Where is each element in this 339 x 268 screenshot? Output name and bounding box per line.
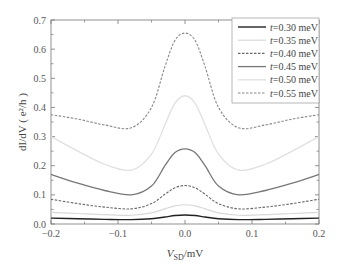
x-axis-title: VSD/mV <box>167 247 204 262</box>
y-tick-label: 0.0 <box>34 219 47 230</box>
x-tick-label: 0.1 <box>246 228 259 239</box>
y-tick-label: 0.5 <box>34 73 47 84</box>
curve-series-3 <box>51 149 319 195</box>
y-axis-title: dI/dV ( e²/h ) <box>16 93 29 151</box>
x-tick-label: 0.0 <box>179 228 192 239</box>
x-tick-label: 0.2 <box>313 228 326 239</box>
curve-series-4 <box>51 96 319 171</box>
legend: t=0.30 meVt=0.35 meVt=0.40 meVt=0.45 meV… <box>232 18 319 103</box>
y-tick-label: 0.1 <box>34 189 47 200</box>
conductance-chart: −0.2−0.10.00.10.20.00.10.20.30.40.50.60.… <box>0 0 339 268</box>
legend-label-1: t=0.35 meV <box>270 35 319 46</box>
curve-series-1 <box>51 205 319 216</box>
legend-label-5: t=0.55 meV <box>270 88 319 99</box>
y-tick-label: 0.4 <box>34 102 47 113</box>
legend-label-0: t=0.30 meV <box>270 22 319 33</box>
y-tick-label: 0.3 <box>34 131 47 142</box>
legend-label-2: t=0.40 meV <box>270 48 319 59</box>
y-tick-label: 0.6 <box>34 44 47 55</box>
curve-series-0 <box>51 215 319 220</box>
curve-series-2 <box>51 186 319 209</box>
x-tick-label: −0.1 <box>109 228 127 239</box>
y-tick-label: 0.2 <box>34 160 47 171</box>
y-tick-label: 0.7 <box>34 15 47 26</box>
x-tick-label: −0.2 <box>42 228 60 239</box>
legend-label-4: t=0.50 meV <box>270 74 319 85</box>
legend-label-3: t=0.45 meV <box>270 61 319 72</box>
